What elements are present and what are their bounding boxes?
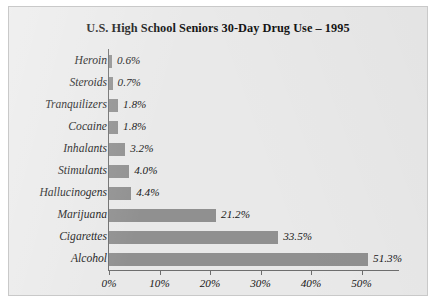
bar-value-label: 21.2%	[221, 208, 250, 220]
bar	[109, 121, 118, 134]
x-axis-tick	[109, 270, 110, 275]
bar-value-label: 33.5%	[283, 230, 312, 242]
x-axis-tick-label: 50%	[351, 277, 372, 289]
bar-value-label: 1.8%	[123, 120, 146, 132]
bar	[109, 99, 118, 112]
bar-value-label: 4.0%	[134, 164, 157, 176]
category-label: Heroin	[0, 54, 107, 67]
bar	[109, 187, 131, 200]
category-label: Inhalants	[0, 142, 107, 155]
category-label: Hallucinogens	[0, 186, 107, 199]
x-axis-tick	[210, 270, 211, 275]
chart-figure: U.S. High School Seniors 30-Day Drug Use…	[8, 6, 428, 296]
x-axis-tick	[160, 270, 161, 275]
bar	[109, 55, 112, 68]
bar	[109, 231, 278, 244]
bar	[109, 209, 216, 222]
bar-value-label: 3.2%	[130, 142, 153, 154]
category-label: Cocaine	[0, 120, 107, 133]
bar-value-label: 51.3%	[373, 252, 402, 264]
y-axis-line	[108, 49, 109, 270]
bar-value-label: 0.6%	[117, 54, 140, 66]
x-axis-tick	[311, 270, 312, 275]
bar-value-label: 0.7%	[118, 76, 141, 88]
plot-area: HeroinSteroidsTranquilizersCocaineInhala…	[9, 7, 429, 297]
x-axis-tick-label: 10%	[149, 277, 170, 289]
category-label: Tranquilizers	[0, 98, 107, 111]
bar	[109, 143, 125, 156]
bar	[109, 77, 113, 90]
x-axis-tick-label: 30%	[250, 277, 271, 289]
bar	[109, 165, 129, 178]
x-axis-tick-label: 20%	[200, 277, 221, 289]
bar-value-label: 1.8%	[123, 98, 146, 110]
x-axis-tick-label: 0%	[102, 277, 117, 289]
x-axis-tick-label: 40%	[301, 277, 322, 289]
bar-value-label: 4.4%	[136, 186, 159, 198]
x-axis-line	[108, 270, 399, 271]
category-label: Alcohol	[0, 252, 107, 265]
x-axis-tick	[362, 270, 363, 275]
category-label: Marijuana	[0, 208, 107, 221]
category-label: Steroids	[0, 76, 107, 89]
category-label: Cigarettes	[0, 230, 107, 243]
category-label: Stimulants	[0, 164, 107, 177]
x-axis-tick	[261, 270, 262, 275]
bar	[109, 253, 368, 266]
